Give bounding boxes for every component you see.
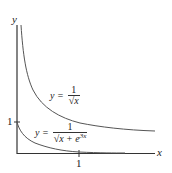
equation-lower-fraction: 1 √x + e3x [53, 122, 88, 144]
equation-lower: y = 1 √x + e3x [35, 122, 87, 144]
equation-lower-numerator: 1 [67, 122, 74, 132]
equation-lower-denominator: √x + e3x [53, 132, 88, 144]
equation-upper-denominator: √x [68, 95, 80, 106]
equation-lower-lhs: y = [35, 128, 49, 138]
y-tick-label: 1 [7, 116, 13, 127]
curve-inverse-sqrt [21, 25, 155, 131]
equation-upper-numerator: 1 [70, 85, 77, 95]
equation-lower-den-exp: 3x [80, 132, 87, 140]
plot: y x 1 1 y = 1 √x y = 1 √x + e3x [0, 0, 172, 173]
x-tick-label: 1 [76, 158, 82, 169]
y-axis-label: y [12, 14, 17, 25]
equation-upper-fraction: 1 √x [68, 85, 80, 106]
equation-upper: y = 1 √x [50, 85, 80, 106]
equation-lower-den-main: √x + e [54, 133, 80, 144]
plot-canvas [0, 0, 172, 173]
x-axis-label: x [157, 147, 162, 158]
equation-upper-lhs: y = [50, 91, 64, 101]
